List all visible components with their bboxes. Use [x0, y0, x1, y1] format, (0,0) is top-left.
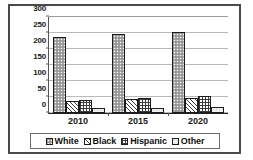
- bar-other-2020: [211, 107, 224, 113]
- legend-swatch-white-icon: [46, 138, 53, 145]
- bar-group-2020: [168, 17, 228, 113]
- y-tick-label: 300: [33, 4, 46, 13]
- y-tick-label: 100: [33, 68, 46, 77]
- y-tick-label: 150: [33, 52, 46, 61]
- legend-label: Hispanic: [130, 136, 167, 146]
- bar-white-2010: [53, 37, 66, 113]
- legend-item-white[interactable]: White: [46, 136, 79, 146]
- y-tick-label: 200: [33, 36, 46, 45]
- legend-item-other[interactable]: Other: [172, 136, 205, 146]
- bar-other-2010: [92, 108, 105, 113]
- bar-black-2015: [125, 99, 138, 113]
- bar-hispanic-2010: [79, 100, 92, 113]
- bar-white-2015: [112, 34, 125, 113]
- bar-group-2015: [109, 17, 169, 113]
- legend-label: Other: [181, 136, 205, 146]
- y-tick-label: 250: [33, 20, 46, 29]
- legend-item-black[interactable]: Black: [84, 136, 117, 146]
- plot-area: 050100150200250300: [48, 17, 228, 114]
- legend-label: Black: [93, 136, 117, 146]
- bar-white-2020: [172, 32, 185, 113]
- x-tick-label-2020: 2020: [188, 116, 208, 126]
- x-tick-label-2015: 2015: [128, 116, 148, 126]
- bar-group-2010: [49, 17, 109, 113]
- chart-frame: 050100150200250300 201020152020 WhiteBla…: [8, 4, 241, 154]
- legend-swatch-other-icon: [172, 138, 179, 145]
- legend-item-hispanic[interactable]: Hispanic: [121, 136, 167, 146]
- x-axis: 201020152020: [48, 116, 228, 130]
- bar-hispanic-2015: [138, 98, 151, 113]
- y-tick-label: 0: [42, 100, 46, 109]
- x-tick-mark: [108, 113, 109, 116]
- bar-other-2015: [151, 108, 164, 113]
- bar-hispanic-2020: [198, 96, 211, 113]
- legend-swatch-hispanic-icon: [121, 138, 128, 145]
- bar-black-2020: [185, 98, 198, 113]
- bars-layer: [49, 17, 228, 113]
- y-tick-label: 50: [38, 84, 47, 93]
- legend-label: White: [55, 136, 79, 146]
- bar-black-2010: [66, 101, 79, 113]
- x-tick-mark: [168, 113, 169, 116]
- x-tick-label-2010: 2010: [68, 116, 88, 126]
- legend-swatch-black-icon: [84, 138, 91, 145]
- chart-legend: WhiteBlackHispanicOther: [30, 133, 220, 149]
